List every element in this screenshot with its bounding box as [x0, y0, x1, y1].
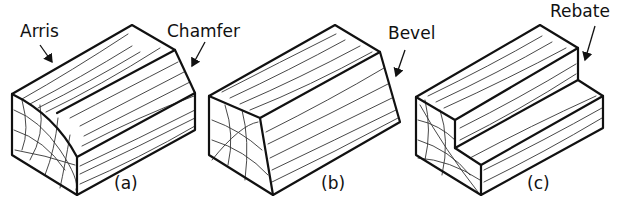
label-rebate: Rebate	[550, 3, 610, 20]
caption-a: (a)	[114, 175, 138, 192]
bevel-arrow	[396, 50, 405, 76]
caption-c: (c)	[527, 175, 550, 192]
shape-c-rebated-block	[416, 25, 603, 195]
rebate-arrow	[585, 26, 595, 60]
arris-arrow	[40, 45, 52, 62]
caption-b: (b)	[321, 175, 345, 192]
shape-a-chamfered-block	[12, 25, 195, 195]
chamfer-arrow	[192, 42, 205, 66]
label-arris: Arris	[20, 23, 59, 40]
shape-b-bevelled-block	[209, 25, 400, 195]
label-chamfer: Chamfer	[167, 23, 240, 40]
label-bevel: Bevel	[388, 25, 435, 42]
